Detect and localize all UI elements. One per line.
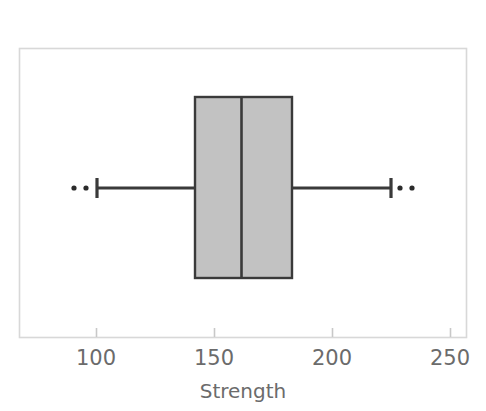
x-axis-title: Strength <box>200 379 287 403</box>
x-tick-label-200: 200 <box>312 346 352 370</box>
x-tick-label-150: 150 <box>194 346 234 370</box>
x-tick-label-250: 250 <box>430 346 470 370</box>
outlier-point <box>83 185 88 190</box>
iqr-box <box>195 97 292 278</box>
outlier-point <box>409 185 414 190</box>
outlier-point <box>397 185 402 190</box>
outlier-point <box>71 185 76 190</box>
boxplot-figure: 100 150 200 250 Strength <box>0 0 486 411</box>
boxplot-canvas: 100 150 200 250 Strength <box>0 0 486 411</box>
x-tick-label-100: 100 <box>76 346 116 370</box>
